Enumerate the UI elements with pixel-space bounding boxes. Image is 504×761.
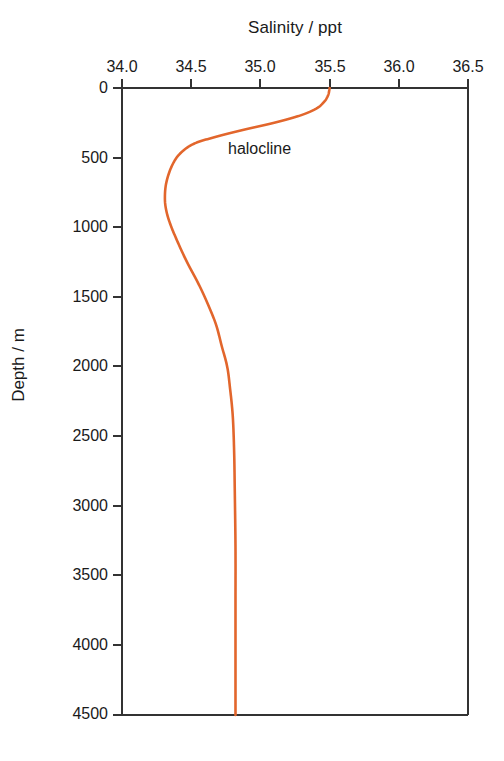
salinity-depth-figure: Salinity / ppt 34.0 34.5 35.0 35.5 36.0 … xyxy=(0,0,504,761)
plot-area xyxy=(0,0,504,761)
axes-frame xyxy=(122,88,468,715)
halocline-annotation: halocline xyxy=(228,140,291,158)
salinity-profile-curve xyxy=(165,88,330,715)
x-tick-marks xyxy=(122,79,468,88)
y-tick-marks xyxy=(113,88,122,715)
